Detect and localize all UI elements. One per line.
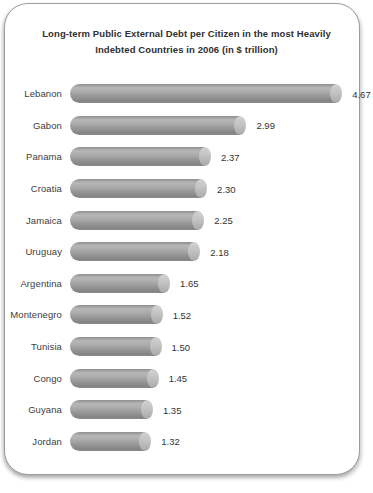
chart-page: Long-term Public External Debt per Citiz… [0, 0, 373, 493]
value-label: 2.18 [210, 246, 229, 257]
chart-row: Lebanon 4.67 [0, 78, 373, 110]
value-label: 1.65 [180, 278, 199, 289]
chart-title: Long-term Public External Debt per Citiz… [36, 26, 338, 57]
bar: 2.18 [70, 242, 200, 261]
bar: 1.45 [70, 369, 159, 388]
category-label: Panama [0, 151, 62, 162]
bar-cylinder-end-cap [330, 84, 342, 103]
category-label: Gabon [0, 120, 62, 131]
chart-row: Jordan 1.32 [0, 426, 373, 458]
bar: 1.52 [70, 305, 163, 324]
value-label: 1.52 [173, 309, 192, 320]
category-label: Jordan [0, 436, 62, 447]
chart-row: Panama 2.37 [0, 141, 373, 173]
bar-cylinder-body [70, 84, 336, 103]
value-label: 4.67 [352, 88, 371, 99]
bar-cylinder-body [70, 337, 156, 356]
category-label: Guyana [0, 404, 62, 415]
value-label: 2.25 [214, 215, 233, 226]
value-label: 2.30 [217, 183, 236, 194]
chart-row: Gabon 2.99 [0, 110, 373, 142]
value-label: 1.50 [172, 341, 191, 352]
chart-row: Jamaica 2.25 [0, 204, 373, 236]
bar-cylinder-body [70, 147, 205, 166]
value-label: 1.45 [169, 373, 188, 384]
category-label: Tunisia [0, 341, 62, 352]
category-label: Uruguay [0, 246, 62, 257]
bar: 2.30 [70, 179, 207, 198]
category-label: Croatia [0, 183, 62, 194]
value-label: 1.32 [161, 436, 180, 447]
chart-row: Congo 1.45 [0, 362, 373, 394]
bar: 1.50 [70, 337, 162, 356]
bar-cylinder-body [70, 305, 157, 324]
chart-row: Argentina 1.65 [0, 268, 373, 300]
bar-cylinder-end-cap [234, 116, 246, 135]
bar-cylinder-end-cap [151, 305, 163, 324]
bar-cylinder-end-cap [147, 369, 159, 388]
bar-cylinder-body [70, 242, 194, 261]
category-label: Montenegro [0, 309, 62, 320]
category-label: Argentina [0, 278, 62, 289]
bar-cylinder-end-cap [188, 242, 200, 261]
value-label: 2.99 [256, 120, 275, 131]
chart-row: Tunisia 1.50 [0, 331, 373, 363]
chart-rows: Lebanon 4.67 Gabon 2.99 Panama 2.37 [0, 78, 373, 457]
bar-cylinder-body [70, 400, 147, 419]
category-label: Congo [0, 373, 62, 384]
bar-cylinder-body [70, 274, 164, 293]
bar-cylinder-end-cap [158, 274, 170, 293]
chart-row: Uruguay 2.18 [0, 236, 373, 268]
bar: 1.65 [70, 274, 170, 293]
bar-cylinder-body [70, 369, 153, 388]
chart-row: Montenegro 1.52 [0, 299, 373, 331]
bar: 2.25 [70, 211, 204, 230]
bar-cylinder-end-cap [150, 337, 162, 356]
bar-cylinder-end-cap [139, 432, 151, 451]
category-label: Lebanon [0, 88, 62, 99]
chart-row: Croatia 2.30 [0, 173, 373, 205]
bar: 1.32 [70, 432, 151, 451]
category-label: Jamaica [0, 215, 62, 226]
bar-cylinder-end-cap [141, 400, 153, 419]
bar-cylinder-end-cap [199, 147, 211, 166]
bar: 2.37 [70, 147, 211, 166]
bar: 2.99 [70, 116, 246, 135]
bar-cylinder-body [70, 179, 201, 198]
bar: 4.67 [70, 84, 342, 103]
bar: 1.35 [70, 400, 153, 419]
value-label: 2.37 [221, 151, 240, 162]
bar-cylinder-end-cap [195, 179, 207, 198]
chart-row: Guyana 1.35 [0, 394, 373, 426]
bar-cylinder-body [70, 116, 240, 135]
value-label: 1.35 [163, 404, 182, 415]
bar-cylinder-body [70, 432, 145, 451]
bar-cylinder-end-cap [192, 211, 204, 230]
bar-cylinder-body [70, 211, 198, 230]
